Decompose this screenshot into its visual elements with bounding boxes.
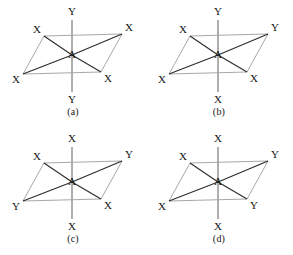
center-atom-label: A	[68, 175, 76, 187]
bond-lower-right	[218, 182, 247, 199]
ligand-upper-right-label: Y	[125, 148, 133, 160]
ligand-upper-left-label: X	[179, 150, 187, 162]
bond-lower-right	[72, 182, 101, 199]
ligand-lower-right-label: Y	[250, 199, 258, 211]
ligand-upper-left-label: X	[33, 23, 41, 35]
plane-edge-right	[101, 161, 122, 199]
bond-lower-left	[169, 182, 218, 201]
plane-edge-left	[23, 36, 44, 74]
ligand-axial-bottom-label: X	[214, 220, 222, 232]
panel-caption-c: (c)	[0, 233, 146, 244]
ligand-lower-left-label: X	[158, 73, 166, 85]
bond-lower-left	[169, 55, 218, 74]
plane-edge-right	[247, 161, 268, 199]
plane-edge-top	[44, 34, 122, 36]
isomer-panel-c: X X X Y Y X A (c)	[0, 127, 146, 254]
panel-caption-b: (b)	[146, 106, 292, 117]
bond-upper-right	[218, 161, 268, 182]
bond-lower-right	[72, 55, 101, 72]
center-atom-label: A	[214, 48, 222, 60]
plane-edge-bottom	[23, 199, 101, 201]
ligand-axial-top-label: X	[68, 132, 76, 144]
plane-edge-left	[169, 36, 190, 74]
bond-upper-right	[218, 34, 268, 55]
ligand-axial-bottom-label: X	[68, 220, 76, 232]
isomer-panel-b: Y X X Y X X A (b)	[146, 0, 292, 127]
bond-upper-right	[72, 34, 122, 55]
bond-upper-right	[72, 161, 122, 182]
bond-lower-right	[218, 55, 247, 72]
ligand-upper-left-label: X	[33, 150, 41, 162]
ligand-axial-top-label: X	[214, 132, 222, 144]
plane-edge-right	[101, 34, 122, 72]
plane-edge-top	[44, 161, 122, 163]
plane-edge-top	[190, 161, 268, 163]
plane-edge-bottom	[23, 72, 101, 74]
plane-edge-bottom	[169, 199, 247, 201]
ligand-lower-right-label: X	[104, 72, 112, 84]
plane-edge-top	[190, 34, 268, 36]
isomer-panel-d: X X X Y X Y A (d)	[146, 127, 292, 254]
ligand-axial-top-label: Y	[214, 5, 222, 17]
center-atom-label: A	[214, 175, 222, 187]
isomer-panel-a: Y Y X X X X A (a)	[0, 0, 146, 127]
plane-edge-right	[247, 34, 268, 72]
figure-root: Y Y X X X X A (a) Y X X Y X X A	[0, 0, 293, 255]
ligand-upper-right-label: Y	[271, 148, 279, 160]
ligand-lower-left-label: X	[158, 200, 166, 212]
ligand-upper-left-label: X	[179, 23, 187, 35]
bond-lower-left	[23, 55, 72, 74]
ligand-lower-right-label: X	[250, 72, 258, 84]
ligand-lower-left-label: X	[12, 73, 20, 85]
ligand-upper-right-label: Y	[271, 21, 279, 33]
plane-edge-bottom	[169, 72, 247, 74]
bond-lower-left	[23, 182, 72, 201]
plane-edge-left	[23, 163, 44, 201]
ligand-upper-right-label: X	[125, 21, 133, 33]
center-atom-label: A	[68, 48, 76, 60]
panel-caption-d: (d)	[146, 233, 292, 244]
ligand-lower-right-label: X	[104, 199, 112, 211]
ligand-axial-top-label: Y	[68, 5, 76, 17]
ligand-axial-bottom-label: Y	[68, 93, 76, 105]
ligand-axial-bottom-label: X	[214, 93, 222, 105]
ligand-lower-left-label: Y	[12, 200, 20, 212]
panel-caption-a: (a)	[0, 106, 146, 117]
plane-edge-left	[169, 163, 190, 201]
